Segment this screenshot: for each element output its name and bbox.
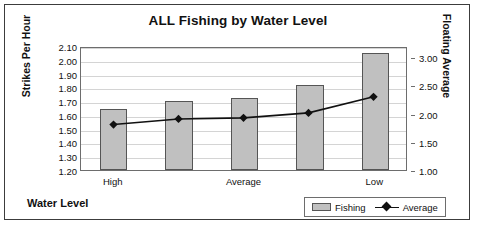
- y-axis-tick: 1.90: [59, 69, 78, 80]
- chart-legend[interactable]: Fishing Average: [304, 197, 446, 217]
- secondary-y-axis-tickmark: [411, 115, 415, 116]
- legend-label-fishing: Fishing: [335, 202, 366, 213]
- x-axis-category-label: Average: [226, 176, 261, 187]
- x-axis-category-label: High: [103, 176, 123, 187]
- secondary-y-axis-tick: 2.50: [419, 81, 438, 92]
- y-axis-tick: 1.50: [59, 124, 78, 135]
- y-axis-tick: 2.10: [59, 42, 78, 53]
- data-point-marker[interactable]: [174, 115, 182, 123]
- secondary-y-axis-tick-labels: 1.001.502.002.503.00: [411, 47, 445, 171]
- x-axis-category-labels: HighAverageLow: [80, 176, 407, 190]
- x-axis-category-label: Low: [366, 176, 383, 187]
- plot-area: [80, 47, 407, 171]
- y-axis-title: Strikes Per Hour: [20, 0, 32, 124]
- data-point-marker[interactable]: [109, 120, 117, 128]
- y-axis-tick: 1.60: [59, 110, 78, 121]
- y-axis-tick: 1.70: [59, 97, 78, 108]
- line-series-average: [81, 48, 406, 170]
- average-markers: [109, 93, 377, 129]
- secondary-y-axis-tickmark: [411, 58, 415, 59]
- secondary-y-axis-tickmark: [411, 143, 415, 144]
- data-point-marker[interactable]: [239, 114, 247, 122]
- secondary-y-axis-tick: 1.50: [419, 137, 438, 148]
- chart-title: ALL Fishing by Water Level: [5, 13, 471, 28]
- y-axis-tick: 1.80: [59, 83, 78, 94]
- y-axis-tick: 2.00: [59, 55, 78, 66]
- y-axis-tick: 1.40: [59, 138, 78, 149]
- secondary-y-axis-tick: 1.00: [419, 166, 438, 177]
- data-point-marker[interactable]: [369, 93, 377, 101]
- line-series-svg: [81, 48, 406, 170]
- x-axis-title: Water Level: [27, 197, 88, 209]
- y-axis-tick: 1.20: [59, 166, 78, 177]
- chart-container: ALL Fishing by Water Level Strikes Per H…: [4, 4, 470, 220]
- y-axis-tick-labels: 1.201.301.401.501.601.701.801.902.002.10: [41, 47, 77, 171]
- secondary-y-axis-tickmark: [411, 86, 415, 87]
- secondary-y-axis-tick: 2.00: [419, 109, 438, 120]
- data-point-marker[interactable]: [304, 109, 312, 117]
- legend-label-average: Average: [403, 202, 438, 213]
- secondary-y-axis-tick: 3.00: [419, 53, 438, 64]
- secondary-y-axis-tickmark: [411, 171, 415, 172]
- line-swatch-icon: [375, 203, 399, 212]
- y-axis-tick: 1.30: [59, 152, 78, 163]
- legend-item-average[interactable]: Average: [375, 202, 438, 213]
- legend-item-fishing[interactable]: Fishing: [312, 202, 366, 213]
- bar-swatch-icon: [312, 203, 331, 211]
